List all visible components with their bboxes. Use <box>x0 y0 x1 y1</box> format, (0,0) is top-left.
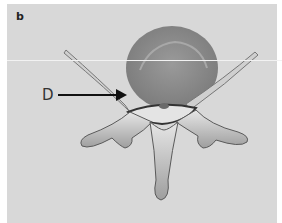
arrow-icon <box>0 0 282 223</box>
